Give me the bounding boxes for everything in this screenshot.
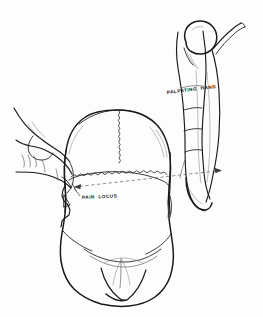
little-finger-tip [241, 23, 245, 27]
pain-locus-label: PAIN LOCUS [82, 193, 118, 200]
frontal-bone-arc [69, 172, 170, 188]
cranium-outline [60, 110, 173, 306]
pointing-hand-shade-2 [32, 122, 45, 137]
maxilla-left [63, 231, 92, 251]
finger-crease-mid [184, 129, 202, 131]
folded-finger-1 [22, 155, 24, 167]
folded-finger-2 [28, 155, 30, 167]
skull-group [60, 110, 173, 306]
finger-crease-1 [42, 160, 45, 172]
palpating-thumb-outer [177, 32, 206, 211]
palpating-thumb-loop [185, 21, 217, 54]
thumb-loop-highlight [192, 27, 203, 30]
mandible-band [84, 249, 161, 262]
nasal-midline [120, 258, 121, 288]
finger-crease-prox [184, 108, 202, 110]
nasal-left-wing [113, 260, 121, 285]
pointing-hand-dorsum [14, 108, 70, 162]
palpating-hand-group [177, 21, 246, 211]
index-finger-bottom [16, 172, 71, 188]
parietal-shade-right [156, 130, 167, 157]
annotation-group: PAIN LOCUS PALPATING HAND [72, 84, 222, 200]
thumb-web-3 [190, 55, 198, 69]
index-finger-top [16, 140, 72, 174]
sagittal-suture [118, 110, 120, 163]
finger-crease-dist [185, 150, 202, 152]
nasal-right-wing [122, 260, 130, 285]
anatomical-figure: PAIN LOCUS PALPATING HAND [0, 0, 263, 317]
parietal-shade-left [69, 126, 83, 154]
cranium-vertex-line [79, 110, 157, 125]
reference-line-right-arrowhead [215, 168, 222, 173]
palpating-index-inner [202, 31, 210, 199]
thumb-web [184, 48, 193, 65]
folded-finger-3 [34, 156, 36, 167]
figure-canvas: PAIN LOCUS PALPATING HAND [0, 0, 263, 317]
palpating-hand-outer-edge [206, 50, 220, 202]
